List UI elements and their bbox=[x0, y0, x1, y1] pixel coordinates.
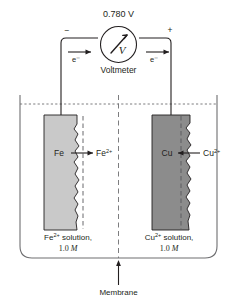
cell-diagram-canvas: 0.780 V − + V Voltmeter e⁻ e⁻ Fe Fe2+ Cu… bbox=[0, 0, 237, 302]
cu-ion-charge: 2+ bbox=[214, 148, 220, 154]
cu-solution-label: Cu2+ solution, bbox=[145, 232, 194, 242]
cu-concentration-unit: M bbox=[171, 244, 180, 253]
cu-electrode-label: Cu bbox=[162, 148, 173, 158]
cu-ion-base: Cu bbox=[203, 148, 214, 158]
fe-solution-rest: solution, bbox=[60, 233, 92, 242]
fe-electrode-label: Fe bbox=[54, 148, 64, 158]
negative-terminal-label: − bbox=[65, 25, 70, 35]
membrane-arrow-head bbox=[116, 260, 121, 266]
fe-concentration-label: 1.0 M bbox=[59, 244, 79, 253]
fe-ion-base: Fe bbox=[96, 148, 106, 158]
cu-ion-label: Cu2+ bbox=[203, 148, 220, 158]
positive-terminal-label: + bbox=[168, 25, 173, 35]
fe-concentration-unit: M bbox=[70, 244, 79, 253]
cu-concentration-label: 1.0 M bbox=[160, 244, 180, 253]
voltmeter-label: Voltmeter bbox=[101, 65, 137, 75]
membrane-label: Membrane bbox=[99, 288, 138, 297]
right-electron-label: e⁻ bbox=[150, 55, 158, 64]
left-electron-label: e⁻ bbox=[72, 55, 80, 64]
fe-arrow-head bbox=[88, 151, 94, 156]
voltmeter-reading: 0.780 V bbox=[103, 9, 134, 19]
cu-solution-rest: solution, bbox=[161, 233, 193, 242]
fe-electrode bbox=[44, 115, 83, 230]
fe-ion-label: Fe2+ bbox=[96, 148, 112, 158]
right-wire bbox=[139, 38, 171, 115]
galvanic-cell-figure: 0.780 V − + V Voltmeter e⁻ e⁻ Fe Fe2+ Cu… bbox=[0, 0, 237, 302]
left-electron-arrow-head bbox=[86, 50, 92, 55]
fe-ion-charge: 2+ bbox=[106, 148, 112, 154]
fe-electrode-body bbox=[44, 115, 78, 230]
membrane-callout-arrow bbox=[116, 260, 121, 285]
cu-solution-base: Cu bbox=[145, 233, 155, 242]
left-wire bbox=[61, 38, 98, 115]
fe-concentration-value: 1.0 bbox=[59, 244, 71, 253]
cu-concentration-value: 1.0 bbox=[160, 244, 172, 253]
right-electron-arrow-head bbox=[164, 50, 170, 55]
cu-electrode-body bbox=[152, 115, 191, 230]
fe-solution-label: Fe2+ solution, bbox=[44, 232, 92, 242]
cu-electrode bbox=[152, 115, 191, 230]
